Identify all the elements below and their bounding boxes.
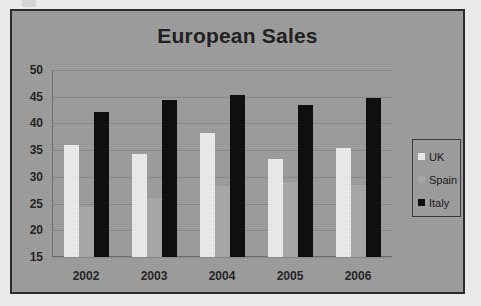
bar-spain-2002[interactable] [79, 207, 94, 257]
legend-label: Spain [429, 174, 457, 186]
bar-group: 2002 [57, 70, 115, 257]
plot-area: 5045403530252015 20022003200420052006 [52, 70, 392, 257]
bar-italy-2004[interactable] [230, 95, 245, 257]
y-axis-tick-label: 50 [30, 63, 43, 77]
bar-spain-2005[interactable] [283, 182, 298, 257]
bar-group: 2005 [261, 70, 319, 257]
legend-item-uk[interactable]: UK [418, 145, 460, 168]
y-axis-tick-label: 40 [30, 116, 43, 130]
x-axis-tick-label: 2006 [345, 269, 372, 283]
y-axis-tick-label: 30 [30, 170, 43, 184]
bar-italy-2002[interactable] [94, 112, 109, 257]
bar-spain-2003[interactable] [147, 198, 162, 257]
x-axis-tick-label: 2004 [209, 269, 236, 283]
bar-italy-2006[interactable] [366, 98, 381, 257]
legend-label: Italy [429, 197, 449, 209]
y-axis-tick-label: 45 [30, 89, 43, 103]
x-axis-tick-label: 2005 [277, 269, 304, 283]
bar-uk-2003[interactable] [132, 154, 147, 257]
scan-artifact [22, 0, 36, 7]
y-axis-tick-label: 25 [30, 196, 43, 210]
y-axis-tick-label: 20 [30, 223, 43, 237]
y-axis-tick-label: 15 [30, 250, 43, 264]
legend-swatch-icon [418, 199, 425, 206]
legend-item-italy[interactable]: Italy [418, 191, 460, 214]
legend-item-spain[interactable]: Spain [418, 168, 460, 191]
gridline [52, 257, 392, 258]
legend-swatch-icon [418, 176, 425, 183]
bar-uk-2005[interactable] [268, 159, 283, 257]
bar-group: 2006 [329, 70, 387, 257]
y-axis-tick-label: 35 [30, 143, 43, 157]
x-axis-tick-label: 2002 [73, 269, 100, 283]
legend-label: UK [429, 151, 444, 163]
legend-swatch-icon [418, 153, 425, 160]
chart-legend: UKSpainItaly [412, 139, 461, 217]
chart-frame: European Sales 5045403530252015 20022003… [10, 9, 465, 294]
bar-italy-2005[interactable] [298, 105, 313, 257]
bar-group: 2003 [125, 70, 183, 257]
bar-uk-2002[interactable] [64, 145, 79, 257]
bar-italy-2003[interactable] [162, 100, 177, 257]
bar-groups: 20022003200420052006 [52, 70, 392, 257]
bar-uk-2004[interactable] [200, 133, 215, 257]
chart-title: European Sales [12, 24, 463, 48]
bar-spain-2004[interactable] [215, 186, 230, 257]
bar-group: 2004 [193, 70, 251, 257]
bar-uk-2006[interactable] [336, 148, 351, 257]
x-axis-tick-label: 2003 [141, 269, 168, 283]
bar-spain-2006[interactable] [351, 185, 366, 257]
